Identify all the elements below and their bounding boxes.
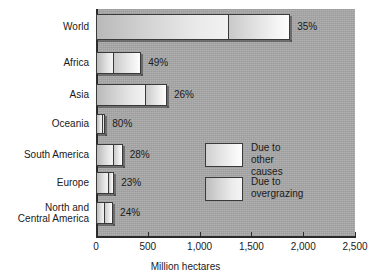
bar-value-label: 49% bbox=[148, 57, 168, 68]
legend-label-overgrazing: Due to overgrazing bbox=[251, 176, 303, 200]
x-axis-title: Million hectares bbox=[0, 261, 371, 272]
bar-value-label: 26% bbox=[174, 89, 194, 100]
bar-value-label: 23% bbox=[121, 177, 141, 188]
x-tick bbox=[251, 232, 252, 238]
bar-shadow bbox=[290, 16, 292, 42]
bar-segment-overgrazing bbox=[96, 14, 229, 40]
bar-shadow bbox=[105, 116, 107, 136]
x-tick bbox=[200, 232, 201, 238]
legend-swatch-overgrazing bbox=[205, 177, 243, 201]
bar-shadow bbox=[114, 174, 116, 196]
bar-row bbox=[96, 202, 113, 224]
bar-segment-other-causes bbox=[145, 84, 167, 106]
plot-texture bbox=[96, 9, 355, 237]
x-tick bbox=[96, 232, 97, 238]
y-axis-label: Oceania bbox=[0, 118, 89, 129]
y-axis-label: South America bbox=[0, 149, 89, 160]
x-tick-label: 2,500 bbox=[342, 241, 367, 252]
plot-area bbox=[96, 9, 355, 237]
bar-shadow bbox=[167, 86, 169, 108]
bar-segment-overgrazing bbox=[96, 144, 114, 166]
x-tick bbox=[355, 232, 356, 238]
x-tick-label: 500 bbox=[139, 241, 156, 252]
bar-row bbox=[96, 14, 290, 40]
x-tick-label: 1,500 bbox=[239, 241, 264, 252]
bar-segment-other-causes bbox=[113, 52, 142, 74]
x-tick-label: 2,000 bbox=[291, 241, 316, 252]
x-tick-label: 1,000 bbox=[187, 241, 212, 252]
bar-segment-overgrazing bbox=[96, 84, 146, 106]
x-tick-label: 0 bbox=[93, 241, 99, 252]
legend-label-other-causes: Due to other causes bbox=[251, 142, 283, 178]
bar-shadow bbox=[113, 204, 115, 226]
bar-shadow bbox=[98, 40, 292, 42]
bar-row bbox=[96, 114, 105, 134]
y-axis-label: World bbox=[0, 21, 89, 32]
bar-segment-overgrazing bbox=[96, 52, 114, 74]
bar-value-label: 35% bbox=[297, 21, 317, 32]
bar-shadow bbox=[98, 106, 169, 108]
bar-shadow bbox=[141, 54, 143, 76]
legend-swatch-other-causes bbox=[205, 143, 243, 167]
bar-row bbox=[96, 172, 114, 194]
bar-row bbox=[96, 52, 141, 74]
bar-value-label: 28% bbox=[130, 149, 150, 160]
bar-value-label: 80% bbox=[112, 118, 132, 129]
bar-segment-overgrazing bbox=[96, 172, 109, 194]
y-axis-label: Europe bbox=[0, 177, 89, 188]
bar-row bbox=[96, 84, 167, 106]
x-axis-line bbox=[96, 236, 355, 238]
bar-segment-other-causes bbox=[228, 14, 291, 40]
bar-segment-other-causes bbox=[104, 202, 113, 224]
bar-shadow bbox=[123, 146, 125, 168]
bar-shadow bbox=[98, 74, 143, 76]
bar-value-label: 24% bbox=[120, 207, 140, 218]
chart-root: 05001,0001,5002,0002,500 WorldAfricaAsia… bbox=[0, 0, 371, 280]
bar-segment-other-causes bbox=[113, 144, 122, 166]
y-axis-label: North and Central America bbox=[0, 202, 89, 224]
x-tick bbox=[303, 232, 304, 238]
y-axis-label: Africa bbox=[0, 57, 89, 68]
y-axis-label: Asia bbox=[0, 89, 89, 100]
x-tick bbox=[148, 232, 149, 238]
bar-row bbox=[96, 144, 123, 166]
bar-shadow bbox=[98, 166, 125, 168]
